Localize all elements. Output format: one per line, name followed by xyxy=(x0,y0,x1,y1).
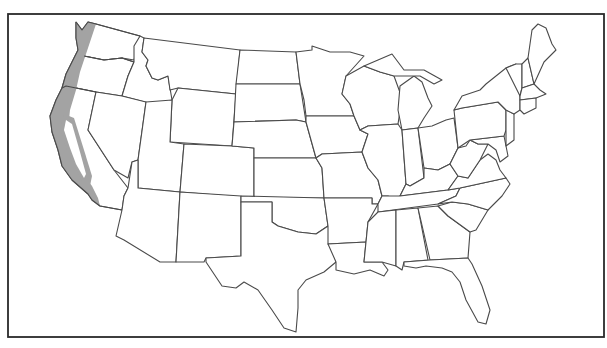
state-wyoming xyxy=(170,88,236,146)
state-colorado xyxy=(180,144,254,198)
us-outline-map xyxy=(0,0,607,348)
state-new-jersey xyxy=(506,110,514,146)
state-north-dakota xyxy=(236,50,300,84)
state-south-dakota xyxy=(234,84,306,122)
map-svg xyxy=(0,0,607,348)
state-new-mexico xyxy=(176,192,241,262)
state-kansas xyxy=(254,158,324,198)
